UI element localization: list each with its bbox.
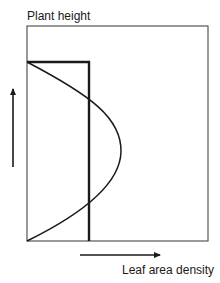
diagram-canvas [0, 0, 220, 283]
parabolic-density-profile [27, 62, 121, 241]
uniform-density-profile [27, 62, 89, 241]
x-axis-label: Leaf area density [122, 263, 214, 277]
